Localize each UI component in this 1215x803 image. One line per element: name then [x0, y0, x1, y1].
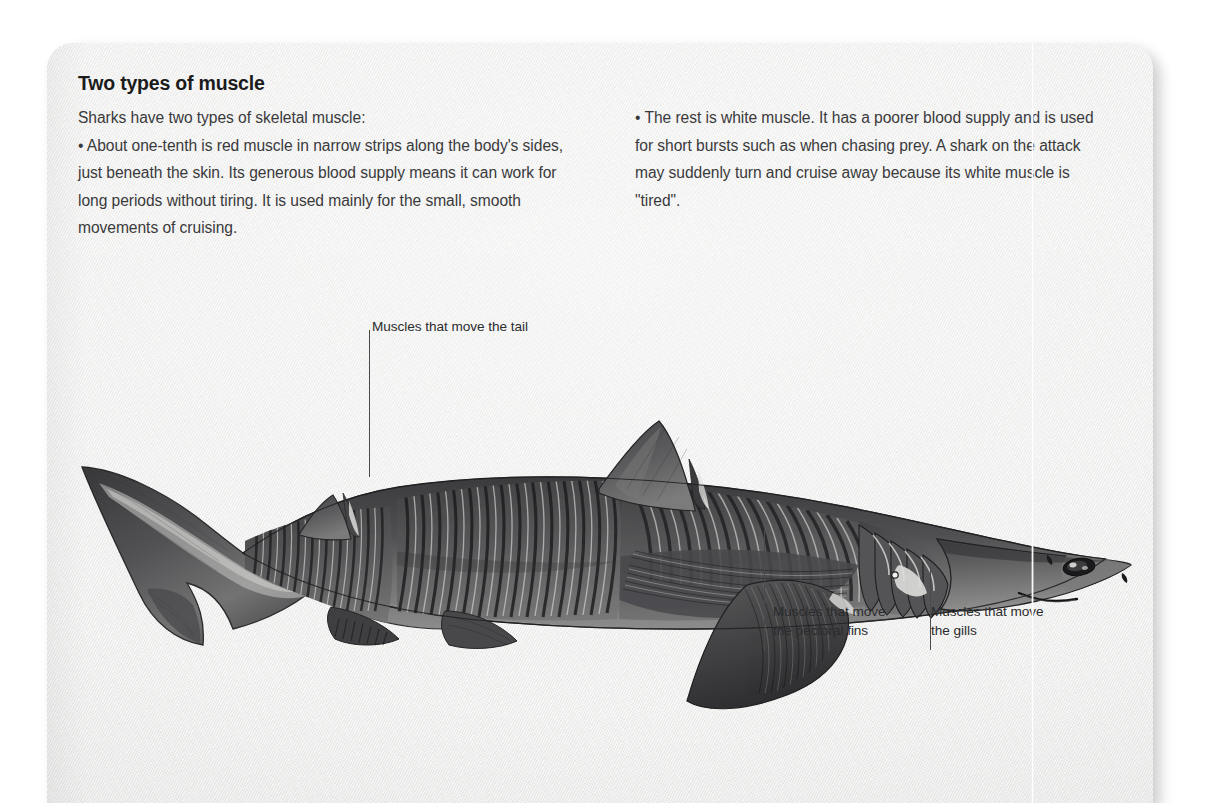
article-text-area: Two types of muscle Sharks have two type…: [78, 71, 1118, 304]
paragraph-red-muscle: • About one-tenth is red muscle in narro…: [78, 132, 578, 242]
leader-line-tail: [369, 330, 370, 477]
page-title: Two types of muscle: [78, 71, 1118, 95]
callout-label-pectoral: Muscles that move the pectoral fins: [773, 603, 885, 640]
myomere-bands-midbody: [391, 473, 627, 633]
text-column-left: Sharks have two types of skeletal muscle…: [78, 104, 578, 242]
callout-label-tail: Muscles that move the tail: [372, 318, 528, 337]
leader-line-pectoral: [764, 530, 765, 650]
paragraph-white-muscle: • The rest is white muscle. It has a poo…: [635, 104, 1105, 214]
text-column-right: • The rest is white muscle. It has a poo…: [635, 104, 1105, 214]
callout-label-gills: Muscles that move the gills: [931, 603, 1043, 640]
text-columns: Sharks have two types of skeletal muscle…: [78, 104, 1118, 304]
shark-diagram-svg: [47, 293, 1153, 733]
paragraph-intro: Sharks have two types of skeletal muscle…: [78, 104, 578, 132]
shark-musculature-illustration: [47, 293, 1153, 733]
book-page-scan: Two types of muscle Sharks have two type…: [47, 43, 1153, 803]
